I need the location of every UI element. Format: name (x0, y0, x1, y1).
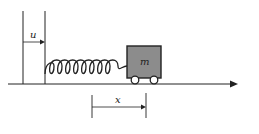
mass-spring-diagram: u m x (0, 0, 259, 134)
mass-label: m (140, 56, 149, 67)
wheel-right (150, 76, 158, 84)
x-label: x (115, 94, 121, 105)
u-label: u (30, 29, 36, 40)
spring (45, 60, 127, 74)
u-arrowhead-icon (40, 40, 45, 45)
x-arrowhead-icon (141, 105, 146, 110)
wheel-left (131, 76, 139, 84)
axis-arrow-icon (230, 81, 238, 88)
